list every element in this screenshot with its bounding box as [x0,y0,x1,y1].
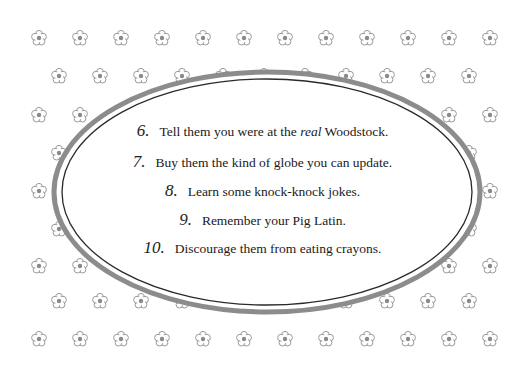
item-emphasis: real [300,124,321,139]
item-text: Tell them you were at the [159,124,300,139]
item-text: Buy them the kind of globe you can updat… [156,155,393,170]
list-item-8: 8.Learn some knock-knock jokes. [0,181,525,201]
item-number: 10. [144,238,165,257]
item-number: 9. [179,210,192,229]
tips-list: 6.Tell them you were at the real Woodsto… [0,0,525,384]
item-number: 8. [165,181,178,200]
item-text: Learn some knock-knock jokes. [188,184,360,199]
item-number: 7. [133,152,146,171]
list-item-6: 6.Tell them you were at the real Woodsto… [0,121,525,141]
list-item-10: 10.Discourage them from eating crayons. [0,238,525,258]
item-number: 6. [137,121,150,140]
list-item-9: 9.Remember your Pig Latin. [0,210,525,230]
list-item-7: 7.Buy them the kind of globe you can upd… [0,152,525,172]
item-text: Discourage them from eating crayons. [175,241,382,256]
item-text: Remember your Pig Latin. [202,213,346,228]
item-text-end: Woodstock. [321,124,388,139]
